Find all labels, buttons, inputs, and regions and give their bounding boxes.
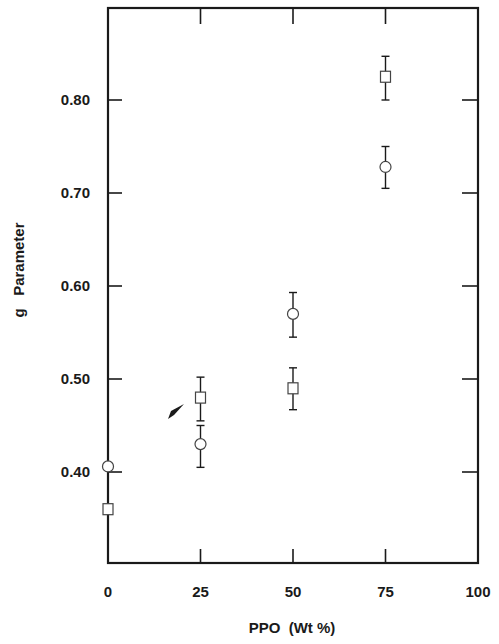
axis-ticks [108, 8, 478, 563]
annotations [168, 404, 184, 419]
square-marker [381, 71, 391, 82]
y-tick-labels: 0.400.500.600.700.80 [61, 91, 90, 480]
circle-marker [103, 461, 114, 472]
x-tick-label: 100 [465, 583, 490, 600]
square-marker [103, 504, 113, 515]
circle-marker [195, 439, 206, 450]
scatter-chart: 0255075100 0.400.500.600.700.80 PPO (Wt … [0, 0, 499, 644]
x-tick-label: 0 [104, 583, 112, 600]
data-series [103, 56, 392, 514]
y-tick-label: 0.60 [61, 277, 90, 294]
y-tick-label: 0.70 [61, 184, 90, 201]
x-axis-title: PPO (Wt %) [249, 619, 336, 636]
square-marker [288, 383, 298, 394]
plot-frame [108, 8, 478, 563]
x-tick-label: 50 [285, 583, 302, 600]
y-tick-label: 0.50 [61, 370, 90, 387]
plot-border [108, 8, 478, 563]
circle-marker [380, 161, 391, 172]
series-circles [103, 147, 392, 472]
y-tick-label: 0.80 [61, 91, 90, 108]
series-squares [103, 56, 391, 514]
arrow-marker-icon [168, 404, 184, 419]
square-marker [196, 392, 206, 403]
x-tick-label: 25 [192, 583, 209, 600]
y-tick-label: 0.40 [61, 463, 90, 480]
circle-marker [288, 308, 299, 319]
x-tick-labels: 0255075100 [104, 583, 491, 600]
x-tick-label: 75 [377, 583, 394, 600]
y-axis-title: g Parameter [10, 222, 27, 317]
